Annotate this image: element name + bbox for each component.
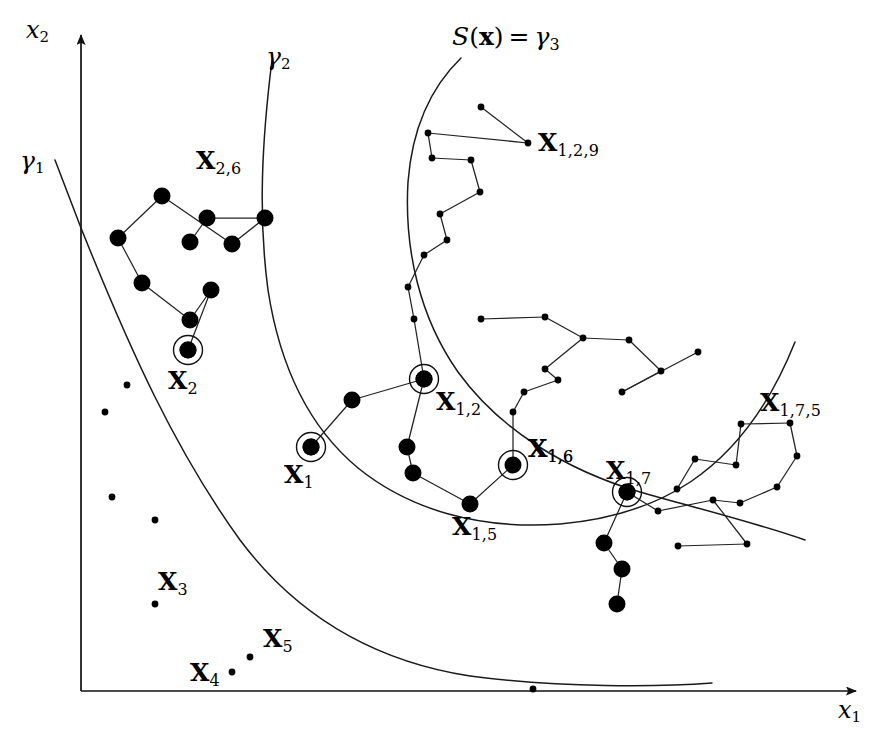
cluster-node [421, 252, 428, 259]
marked-node-X12 [416, 371, 433, 388]
cluster-node [411, 316, 418, 323]
cluster-node [182, 312, 199, 329]
point-label-X17: X1,7 [606, 458, 651, 487]
isolated-point-iso-d [152, 517, 159, 524]
cluster-node [344, 392, 361, 409]
cluster-node [154, 188, 171, 205]
cluster-edge [695, 459, 736, 465]
cluster-node [614, 561, 631, 578]
cluster-node [437, 211, 444, 218]
cluster-node [199, 210, 216, 227]
cluster-label-cluster-x129: X1,2,9 [538, 130, 599, 159]
cluster-node [525, 140, 532, 147]
cluster-edge [481, 317, 545, 319]
cluster-edge [524, 380, 558, 392]
cluster-edge [408, 287, 414, 319]
cluster-node [596, 535, 613, 552]
cluster-node [429, 155, 436, 162]
point-label-X5: X5 [263, 626, 293, 655]
cluster-edge [440, 192, 480, 214]
cluster-edge [414, 319, 424, 379]
cluster-edge [736, 424, 741, 465]
isolated-point-iso-a [124, 382, 131, 389]
cluster-node [619, 389, 626, 396]
cluster-node [794, 453, 801, 460]
cluster-edge [790, 423, 797, 456]
cluster-node [203, 282, 220, 299]
cluster-node [695, 349, 702, 356]
point-label-X12: X1,2 [436, 389, 481, 418]
point-label-X1: X1 [284, 462, 314, 491]
cluster-node [609, 596, 626, 613]
cluster-edge [440, 214, 447, 240]
cluster-node [555, 377, 562, 384]
cluster-node [737, 500, 744, 507]
cluster-edge [481, 107, 528, 143]
cluster-edge [545, 338, 583, 369]
point-label-X2: X2 [168, 368, 198, 397]
cluster-node [478, 316, 485, 323]
cluster-node [510, 409, 517, 416]
cluster-edge [777, 456, 797, 487]
cluster-node [542, 366, 549, 373]
axes-group [81, 35, 856, 691]
figure-canvas: x2x1γ1γ2S(x) = γ3X2,6X1,2,9X1,6X1,7,5X1X… [0, 0, 891, 746]
cluster-node [182, 234, 199, 251]
cluster-node [580, 335, 587, 342]
curve-label-gamma1: γ1 [20, 148, 45, 176]
cluster-node [521, 389, 528, 396]
cluster-edge [629, 340, 661, 371]
cluster-edge [407, 379, 424, 447]
cluster-edge [741, 423, 790, 424]
marked-node-X2 [180, 342, 197, 359]
point-label-X3: X3 [158, 569, 188, 598]
cluster-node [658, 368, 665, 375]
cluster-node [738, 421, 745, 428]
point-label-X15: X1,5 [452, 514, 497, 543]
isolated-point-iso-b [102, 409, 109, 416]
cluster-edge [470, 465, 513, 504]
isolated-point-iso-c [109, 494, 116, 501]
point-label-X16: X1,6 [528, 436, 573, 465]
cluster-edge [740, 487, 777, 503]
marked-node-X16 [505, 457, 522, 474]
cluster-edge [142, 283, 190, 320]
cluster-node [744, 541, 751, 548]
isolated-point-X3-dot [152, 601, 159, 608]
x-axis-label: x1 [838, 698, 861, 725]
marked-node-X1 [303, 439, 320, 456]
cluster-edge [162, 196, 232, 244]
cluster-node [425, 130, 432, 137]
cluster-node [733, 462, 740, 469]
cluster-edge [678, 544, 747, 546]
y-axis-label: x2 [26, 18, 49, 45]
curve-label-gamma2: γ2 [266, 44, 291, 72]
cluster-edge [432, 158, 471, 160]
cluster-node [405, 465, 422, 482]
marked-point-rings-group [174, 336, 642, 507]
cluster-node [134, 275, 151, 292]
cluster-node [468, 157, 475, 164]
curve-label-gamma3: S(x) = γ3 [452, 24, 560, 53]
isolated-point-X4-dot [229, 669, 236, 676]
diagram-svg [0, 0, 891, 746]
cluster-node [774, 484, 781, 491]
cluster-label-cluster-x26: X2,6 [196, 148, 241, 177]
cluster-node [110, 230, 127, 247]
cluster-node [626, 337, 633, 344]
cluster-node [787, 420, 794, 427]
cluster-node [542, 314, 549, 321]
cluster-node [224, 236, 241, 253]
cluster-node [444, 237, 451, 244]
cluster-edge [413, 473, 470, 504]
cluster-edge [408, 255, 424, 287]
cluster-edge [118, 196, 162, 238]
cluster-edge [428, 133, 432, 158]
cluster-node [674, 486, 681, 493]
isolated-point-axis-dot [530, 686, 537, 693]
cluster-edge [713, 500, 740, 503]
cluster-node [692, 456, 699, 463]
cluster-node [477, 189, 484, 196]
cluster-edge [713, 500, 747, 544]
cluster-edge [513, 392, 524, 412]
